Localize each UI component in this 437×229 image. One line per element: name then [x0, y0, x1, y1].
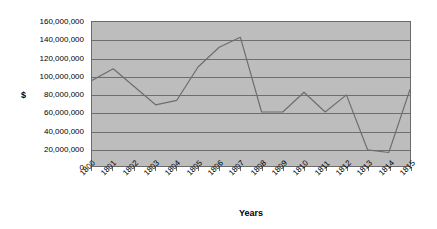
gridline [92, 40, 410, 41]
series-line-svg [92, 22, 410, 166]
y-axis-tick-label: 20,000,000 [44, 144, 84, 153]
y-axis-tick-label: 120,000,000 [40, 53, 85, 62]
y-axis-title: $ [8, 90, 26, 100]
y-axis-tick-label: 80,000,000 [44, 90, 84, 99]
gridline [92, 59, 410, 60]
gridline [92, 113, 410, 114]
gridline [92, 95, 410, 96]
y-axis-tick-label: 100,000,000 [40, 71, 85, 80]
y-axis-tick-label: 160,000,000 [40, 17, 85, 26]
gridline [92, 150, 410, 151]
plot-area [91, 21, 411, 167]
y-axis-tick-label: 40,000,000 [44, 126, 84, 135]
line-chart: $ 160,000,000140,000,000120,000,000100,0… [0, 0, 437, 229]
x-axis-tick-labels: 1800180118021803180418051806180718081809… [91, 171, 411, 207]
y-axis-tick-label: 60,000,000 [44, 108, 84, 117]
gridline [92, 77, 410, 78]
gridline [92, 132, 410, 133]
x-axis-title: Years [91, 208, 411, 218]
y-axis-tick-label: 140,000,000 [40, 35, 85, 44]
y-axis-tick-labels: 160,000,000140,000,000120,000,000100,000… [26, 21, 88, 167]
